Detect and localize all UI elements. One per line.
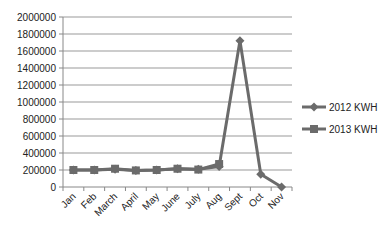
square-marker (174, 165, 182, 173)
y-tick-label: 600000 (23, 131, 57, 142)
y-axis-tick-labels: 2000000180000016000001400000120000010000… (17, 12, 56, 193)
y-tick-label: 0 (50, 182, 56, 193)
x-axis-tick-labels: JanFebMarchAprilMayJuneJulyAugSeptOctNov (59, 190, 286, 218)
line-chart: 2000000180000016000001400000120000010000… (0, 0, 390, 228)
x-tick-label: Sept (222, 190, 244, 212)
square-marker (310, 125, 318, 133)
gridlines (59, 17, 292, 187)
x-tick-label: April (118, 191, 140, 213)
data-series (69, 36, 286, 191)
diamond-marker (235, 36, 244, 45)
y-tick-label: 1000000 (17, 97, 56, 108)
y-tick-label: 400000 (23, 148, 57, 159)
x-tick-label: May (140, 191, 161, 212)
y-tick-label: 800000 (23, 114, 57, 125)
x-tick-label: July (182, 191, 202, 211)
y-tick-label: 1600000 (17, 46, 56, 57)
x-tick-label: Aug (203, 191, 223, 211)
x-tick-label: Jan (59, 191, 78, 210)
square-marker (111, 165, 119, 173)
legend-label: 2013 KWH (329, 124, 377, 135)
y-tick-label: 1800000 (17, 29, 56, 40)
legend-label: 2012 KWH (329, 102, 377, 113)
square-marker (215, 160, 223, 168)
y-tick-label: 1200000 (17, 80, 56, 91)
legend-item: 2012 KWH (302, 102, 377, 113)
square-marker (194, 166, 202, 174)
y-tick-label: 1400000 (17, 63, 56, 74)
diamond-marker (310, 103, 319, 112)
series-2013-kwh (69, 160, 223, 174)
square-marker (90, 166, 98, 174)
square-marker (132, 166, 140, 174)
x-tick-label: March (92, 191, 119, 218)
y-tick-label: 2000000 (17, 12, 56, 23)
legend-item: 2013 KWH (302, 124, 377, 135)
x-tick-label: Oct (246, 190, 265, 209)
legend: 2012 KWH2013 KWH (302, 102, 377, 135)
y-tick-label: 200000 (23, 165, 57, 176)
square-marker (69, 166, 77, 174)
square-marker (153, 166, 161, 174)
x-tick-label: Nov (266, 191, 286, 211)
x-tick-label: June (159, 190, 182, 213)
